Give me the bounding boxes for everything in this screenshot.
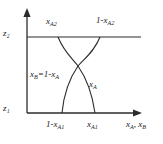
diagram-figure: z₂ z₁ xA2 1-xA2 xB=1-xA xA 1-xA1 xA1 xA,… [0,0,163,144]
x-axis-label-sub-a: A [130,124,134,130]
x-axis-label: xA, xB [126,120,146,129]
x-axis [27,109,142,116]
z1-axis-value: z₁ [3,104,10,113]
z-axis-arrowhead [23,8,30,17]
xa1-tick-label: xA1 [87,120,98,129]
z-axis [23,8,30,113]
xa-subscript-eq: A [55,74,59,80]
x-axis-label-sub-b: B [142,124,146,130]
xa-curve-label: xA [89,80,97,89]
one-minus-xa2-label: 1-xA2 [96,16,114,25]
z2-axis-value: z₂ [3,29,10,38]
xa1-subscript: A1 [91,124,98,130]
one-minus-xa1-subscript: A1 [58,124,65,130]
x-axis-arrowhead [133,109,142,116]
xa-curve-subscript: A [93,84,97,90]
xb-subscript: B [34,74,38,80]
one-minus-xa2-subscript: A2 [108,20,115,26]
xb-curve [62,37,100,113]
xa2-subscript: A2 [50,21,57,27]
xb-equation-label: xB=1-xA [30,70,59,79]
one-minus-xa1-tick-label: 1-xA1 [46,120,64,129]
xa2-label: xA2 [46,17,57,26]
